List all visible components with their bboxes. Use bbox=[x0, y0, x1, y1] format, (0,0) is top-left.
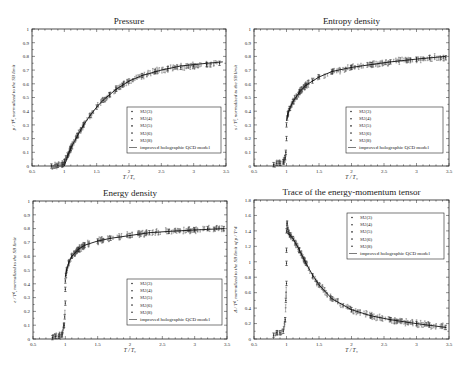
data-marker bbox=[55, 336, 56, 337]
x-tick-label: 3 bbox=[415, 169, 418, 174]
data-marker bbox=[286, 263, 287, 264]
legend-marker bbox=[350, 140, 352, 142]
data-marker bbox=[279, 163, 280, 164]
y-axis-label: s / T³, normalized to the SB limit bbox=[233, 64, 239, 129]
y-tick-label: 1 bbox=[249, 27, 252, 32]
y-tick-label: 0.7 bbox=[23, 68, 30, 73]
y-tick-label: 0.8 bbox=[245, 275, 252, 280]
legend-marker bbox=[351, 246, 353, 248]
x-tick-label: 1 bbox=[285, 169, 288, 174]
legend-label: SU(8) bbox=[360, 244, 373, 249]
y-tick-label: 0.3 bbox=[245, 123, 252, 128]
x-tick-label: 1.5 bbox=[94, 169, 101, 174]
y-tick-label: 0.3 bbox=[23, 123, 30, 128]
data-marker bbox=[206, 64, 207, 65]
panel-title: Pressure bbox=[114, 16, 145, 26]
x-axis: 0.511.522.533.5T / T꜀ bbox=[30, 201, 231, 353]
y-tick-label: 0.2 bbox=[24, 309, 31, 314]
y-tick-label: 0.4 bbox=[245, 109, 252, 114]
y-tick-label: 0.9 bbox=[245, 41, 252, 46]
x-tick-label: 1.5 bbox=[316, 342, 323, 347]
x-tick-label: 1.5 bbox=[316, 169, 323, 174]
y-tick-label: 0.6 bbox=[245, 82, 252, 87]
x-tick-label: 3 bbox=[415, 342, 418, 347]
legend-label: SU(6) bbox=[140, 131, 153, 136]
panel-pressure: Pressure0.511.522.533.5T / T꜀00.10.20.30… bbox=[11, 16, 230, 180]
data-marker bbox=[61, 334, 62, 335]
y-tick-label: 1.4 bbox=[245, 229, 252, 234]
legend-marker bbox=[131, 125, 133, 127]
data-marker bbox=[279, 332, 280, 333]
data-marker bbox=[286, 249, 287, 250]
legend-label: SU(5) bbox=[360, 229, 373, 234]
data-marker bbox=[65, 280, 66, 281]
data-marker bbox=[287, 229, 288, 230]
legend-label: SU(5) bbox=[140, 295, 153, 300]
data-marker bbox=[52, 337, 53, 338]
x-tick-label: 1 bbox=[63, 169, 66, 174]
data-marker bbox=[283, 161, 284, 162]
x-axis-label: T / T꜀ bbox=[345, 174, 357, 180]
y-tick-label: 0.1 bbox=[23, 150, 30, 155]
x-axis: 0.511.522.533.5T / T꜀ bbox=[29, 29, 230, 180]
data-marker bbox=[286, 283, 287, 284]
data-marker bbox=[63, 325, 64, 326]
legend-label: SU(4) bbox=[140, 116, 153, 121]
legend: SU(3)SU(4)SU(5)SU(6)SU(8)improved hologr… bbox=[347, 213, 444, 259]
y-tick-label: 0.5 bbox=[24, 268, 31, 273]
x-tick-label: 3.5 bbox=[224, 342, 231, 347]
panel-title: Energy density bbox=[103, 188, 158, 198]
x-axis-label: T / T꜀ bbox=[345, 347, 357, 353]
y-tick-label: 0.5 bbox=[23, 95, 30, 100]
legend-marker bbox=[350, 111, 352, 113]
panel-trace-anomaly: Trace of the energy-momentum tensor0.511… bbox=[233, 187, 453, 353]
legend-label: SU(6) bbox=[359, 131, 372, 136]
y-tick-label: 0.7 bbox=[24, 240, 31, 245]
x-tick-label: 3.5 bbox=[446, 169, 453, 174]
data-marker bbox=[286, 124, 287, 125]
x-tick-label: 0.5 bbox=[29, 169, 36, 174]
x-tick-label: 3.5 bbox=[223, 169, 230, 174]
data-marker bbox=[285, 157, 286, 158]
legend-label: SU(8) bbox=[359, 138, 372, 143]
legend-marker bbox=[131, 297, 133, 299]
y-tick-label: 0.5 bbox=[245, 95, 252, 100]
x-axis-label: T / T꜀ bbox=[123, 174, 135, 180]
legend-marker bbox=[131, 312, 133, 314]
y-tick-label: 0.7 bbox=[245, 68, 252, 73]
legend-marker bbox=[131, 140, 133, 142]
data-marker bbox=[219, 63, 220, 64]
y-tick-label: 0.8 bbox=[23, 54, 30, 59]
panel-title: Trace of the energy-momentum tensor bbox=[283, 187, 421, 197]
y-tick-label: 1 bbox=[27, 27, 30, 32]
panel-title: Entropy density bbox=[323, 16, 381, 26]
x-tick-label: 2.5 bbox=[381, 342, 388, 347]
data-marker bbox=[64, 161, 65, 162]
legend-marker bbox=[350, 132, 352, 134]
y-tick-label: 1 bbox=[249, 260, 252, 265]
y-tick-label: 0.1 bbox=[24, 323, 31, 328]
x-tick-label: 0.5 bbox=[251, 342, 258, 347]
legend-marker bbox=[350, 118, 352, 120]
figure: Pressure0.511.522.533.5T / T꜀00.10.20.30… bbox=[0, 0, 467, 368]
legend-label: improved holographic QCD model bbox=[140, 317, 210, 322]
data-marker bbox=[65, 302, 66, 303]
data-marker bbox=[58, 336, 59, 337]
data-marker bbox=[273, 334, 274, 335]
legend-label: SU(4) bbox=[140, 288, 153, 293]
panel-entropy-density: Entropy density0.511.522.533.5T / T꜀00.1… bbox=[233, 16, 453, 180]
legend-marker bbox=[351, 224, 353, 226]
data-marker bbox=[276, 163, 277, 164]
y-tick-label: 0.2 bbox=[245, 136, 252, 141]
x-tick-label: 1.5 bbox=[95, 342, 102, 347]
y-tick-label: 0.6 bbox=[245, 290, 252, 295]
legend-label: SU(5) bbox=[140, 123, 153, 128]
legend-marker bbox=[131, 111, 133, 113]
data-marker bbox=[286, 138, 287, 139]
legend: SU(3)SU(4)SU(5)SU(6)SU(8)improved hologr… bbox=[127, 279, 222, 325]
legend-label: SU(4) bbox=[359, 116, 372, 121]
legend-marker bbox=[131, 290, 133, 292]
y-tick-label: 1.2 bbox=[245, 244, 252, 249]
legend-label: SU(3) bbox=[140, 281, 153, 286]
x-tick-label: 0.5 bbox=[251, 169, 258, 174]
